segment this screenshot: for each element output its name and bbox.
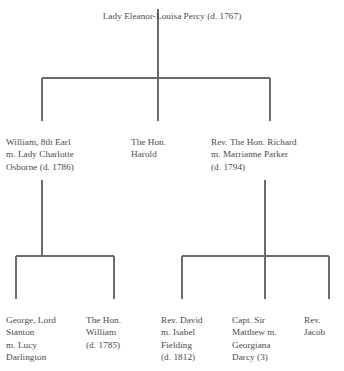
node-hon-harold: The Hon. Harold: [131, 123, 201, 161]
node-george-lord-stanton: George, Lord Stanton m. Lucy Darlington: [6, 301, 78, 364]
node-rev-david: Rev. David m. Isabel Fielding (d. 1812): [161, 301, 233, 364]
node-rev-hon-richard: Rev. The Hon. Richard m. Marrianne Parke…: [211, 123, 339, 173]
node-label: George, Lord Stanton m. Lucy Darlington: [6, 315, 56, 363]
node-rev-jacob: Rev. Jacob: [304, 301, 344, 339]
node-william-8th-earl: William, 8th Earl m. Lady Charlotte Osbo…: [6, 123, 118, 173]
node-root-lady-eleanor-louisa-percy: Lady Eleanor-Louisa Percy (d. 1767): [0, 0, 344, 22]
node-label: The Hon. Harold: [131, 137, 166, 160]
node-label: Rev. David m. Isabel Fielding (d. 1812): [161, 315, 203, 363]
node-label: William, 8th Earl m. Lady Charlotte Osbo…: [6, 137, 74, 172]
node-label: The Hon. William (d. 1785): [86, 315, 121, 350]
node-label: Lady Eleanor-Louisa Percy (d. 1767): [103, 11, 242, 21]
node-label: Capt. Sir Matthew m. Georgiana Darcy (3): [232, 315, 277, 363]
node-label: Rev. Jacob: [304, 315, 325, 338]
family-tree-diagram: Lady Eleanor-Louisa Percy (d. 1767) Will…: [0, 0, 344, 371]
node-hon-william: The Hon. William (d. 1785): [86, 301, 152, 351]
node-label: Rev. The Hon. Richard m. Marrianne Parke…: [211, 137, 297, 172]
node-capt-sir-matthew: Capt. Sir Matthew m. Georgiana Darcy (3): [232, 301, 304, 364]
